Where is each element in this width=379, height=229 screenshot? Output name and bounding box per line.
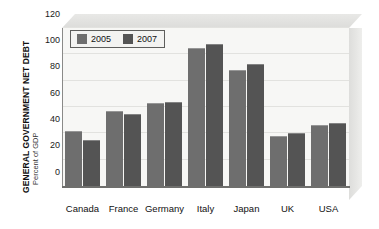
bar-top-highlight [165,102,182,103]
bar-top-highlight [311,125,328,126]
bar-uk-2005 [270,136,287,186]
legend-item-2007: 2007 [123,34,157,44]
bar-japan-2007 [247,64,264,186]
bar-france-2007 [124,114,141,186]
x-axis-tick-label-italy: Italy [197,203,214,214]
bar-group [229,28,264,186]
bar-usa-2007 [329,123,346,186]
bar-uk-2007 [288,133,305,186]
bar-top-highlight [124,114,141,115]
bar-group [147,28,182,186]
bar-top-highlight [270,136,287,137]
x-axis-tick-labels: CanadaFranceGermanyItalyJapanUKUSA [62,203,362,223]
bar-top-highlight [229,70,246,71]
bar-group [311,28,346,186]
y-axis-tick-label: 120 [45,10,60,19]
bar-group [270,28,305,186]
x-axis-tick-label-germany: Germany [145,203,184,214]
bar-top-highlight [106,111,123,112]
y-axis-tick-label: 100 [45,36,60,45]
x-axis-line [62,186,350,188]
y-axis-tick-label: 20 [50,141,60,150]
plot-top-bevel [62,14,362,28]
bar-germany-2005 [147,103,164,186]
bar-top-highlight [83,140,100,141]
y-axis-tick-labels: 020406080100120 [30,0,60,229]
bar-japan-2005 [229,70,246,186]
bar-top-highlight [188,48,205,49]
bar-canada-2007 [83,140,100,186]
bar-italy-2007 [206,44,223,186]
bar-germany-2007 [165,102,182,186]
x-axis-tick-label-uk: UK [281,203,294,214]
chart-legend: 20052007 [70,30,165,48]
bar-top-highlight [65,131,82,132]
x-axis-tick-label-france: France [109,203,139,214]
bar-canada-2005 [65,131,82,186]
x-axis-tick-label-japan: Japan [234,203,260,214]
legend-label-2005: 2005 [91,34,111,44]
y-axis-tick-label: 0 [55,168,60,177]
bar-top-highlight [206,44,223,45]
x-axis-tick-label-usa: USA [319,203,339,214]
legend-item-2005: 2005 [77,34,111,44]
bar-usa-2005 [311,125,328,186]
legend-swatch-icon-2005 [77,34,87,44]
legend-label-2007: 2007 [137,34,157,44]
bars-layer [62,28,349,186]
y-axis-title-group: GENERAL GOVERNMENT NET DEBT Percent of G… [0,0,34,205]
bar-top-highlight [147,103,164,104]
bar-top-highlight [288,133,305,134]
legend-swatch-icon-2007 [123,34,133,44]
plot-right-bevel [349,28,362,214]
x-axis-tick-label-canada: Canada [66,203,99,214]
bar-top-highlight [329,123,346,124]
y-axis-tick-label: 80 [50,62,60,71]
bar-group [188,28,223,186]
bar-france-2005 [106,111,123,186]
bar-top-highlight [247,64,264,65]
y-axis-tick-label: 40 [50,115,60,124]
y-axis-tick-label: 60 [50,89,60,98]
bar-chart-figure: GENERAL GOVERNMENT NET DEBT Percent of G… [0,0,379,229]
bar-italy-2005 [188,48,205,186]
bar-group [106,28,141,186]
bar-group [65,28,100,186]
